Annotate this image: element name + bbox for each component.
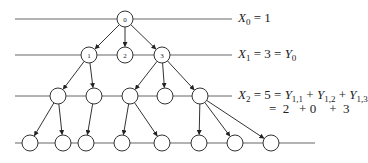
edge-arrow bbox=[63, 61, 84, 89]
sub-x0: 0 bbox=[246, 17, 251, 27]
tree-node-b6 bbox=[191, 135, 207, 151]
node-circle bbox=[50, 88, 66, 104]
plus-2: + bbox=[339, 87, 346, 102]
var-x2: X bbox=[238, 87, 246, 102]
edge-arrow bbox=[199, 104, 200, 135]
node-circle bbox=[191, 135, 207, 151]
var-x1: X bbox=[238, 46, 246, 61]
equation-x2: X2 = 5 = Y1,1 + Y1,2 + Y1,3 bbox=[238, 88, 368, 102]
edge-arrow bbox=[90, 63, 93, 88]
mid-x1: = 3 = bbox=[254, 46, 282, 61]
node-label: 1 bbox=[87, 52, 91, 60]
edge-arrow bbox=[87, 104, 92, 135]
node-circle bbox=[86, 88, 102, 104]
generation-lines bbox=[15, 19, 315, 143]
tree-node-b8 bbox=[263, 135, 279, 151]
var-x0: X bbox=[238, 10, 246, 25]
node-circle bbox=[122, 88, 138, 104]
tree-node-a5 bbox=[192, 88, 208, 104]
tree-node-a2 bbox=[86, 88, 102, 104]
edge-arrow bbox=[131, 25, 156, 49]
tree-node-b7 bbox=[227, 135, 243, 151]
tree-node-b1 bbox=[22, 135, 38, 151]
node-circle bbox=[55, 135, 71, 151]
sub-y0: 0 bbox=[292, 53, 297, 63]
var-y11: Y bbox=[285, 87, 292, 102]
branching-tree-diagram: 0123 bbox=[0, 0, 368, 163]
equation-x0: X0 = 1 bbox=[238, 11, 271, 25]
edge-arrow bbox=[34, 103, 54, 136]
tree-node-n0: 0 bbox=[117, 11, 133, 27]
mid-x2: = 5 = bbox=[254, 87, 282, 102]
node-circle bbox=[263, 135, 279, 151]
node-circle bbox=[227, 135, 243, 151]
edge-arrow bbox=[135, 103, 158, 136]
node-circle bbox=[157, 88, 173, 104]
tree-node-b5 bbox=[154, 135, 170, 151]
equation-x2-values: = 2 + 0 + 3 bbox=[269, 102, 350, 116]
sub-y13: 1,3 bbox=[357, 94, 368, 104]
rhs-x0: = 1 bbox=[254, 10, 271, 25]
tree-node-b3 bbox=[78, 135, 94, 151]
tree-node-a3 bbox=[122, 88, 138, 104]
plus-1: + bbox=[306, 87, 313, 102]
tree-node-n3: 3 bbox=[154, 47, 170, 63]
node-circle bbox=[154, 135, 170, 151]
tree-node-n1: 1 bbox=[81, 47, 97, 63]
equation-x1: X1 = 3 = Y0 bbox=[238, 47, 296, 61]
node-circle bbox=[192, 88, 208, 104]
var-y13: Y bbox=[349, 87, 356, 102]
edge-arrow bbox=[123, 104, 128, 135]
tree-edges bbox=[34, 25, 264, 139]
tree-nodes: 0123 bbox=[22, 11, 279, 151]
edge-arrow bbox=[135, 61, 157, 89]
edge-arrow bbox=[207, 100, 264, 138]
tree-node-b4 bbox=[114, 135, 130, 151]
edge-arrow bbox=[163, 63, 165, 88]
sub-x2: 2 bbox=[246, 94, 251, 104]
tree-node-a1 bbox=[50, 88, 66, 104]
edge-arrow bbox=[95, 25, 119, 49]
edge-arrow bbox=[59, 104, 62, 135]
node-label: 0 bbox=[123, 16, 127, 24]
node-circle bbox=[78, 135, 94, 151]
tree-node-a4 bbox=[157, 88, 173, 104]
node-label: 3 bbox=[160, 52, 164, 60]
var-y0: Y bbox=[285, 46, 292, 61]
tree-node-b2 bbox=[55, 135, 71, 151]
tree-node-n2: 2 bbox=[117, 47, 133, 63]
edge-arrow bbox=[167, 61, 194, 90]
node-circle bbox=[22, 135, 38, 151]
sub-x1: 1 bbox=[246, 53, 251, 63]
node-circle bbox=[114, 135, 130, 151]
node-label: 2 bbox=[123, 52, 127, 60]
